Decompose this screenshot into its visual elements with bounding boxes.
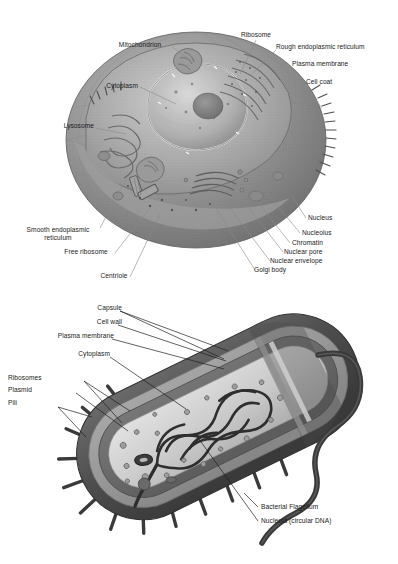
label-cell-wall: Cell wall (56, 318, 122, 326)
label-smooth-endoplasmic-reticulum: Smooth endoplasmic reticulum (12, 226, 104, 242)
label-capsule: Capsule (60, 304, 122, 312)
label-plasma-membrane-bact: Plasma membrane (20, 332, 114, 340)
label-rough-endoplasmic-reticulum: Rough endoplasmic reticulum (276, 43, 398, 51)
label-ribosomes: Ribosomes (8, 374, 72, 382)
label-nucleolus: Nucleolus (302, 229, 360, 237)
label-nuclear-pore: Nuclear pore (284, 248, 354, 256)
label-mitochondrion: Mitochondrion (104, 41, 176, 49)
label-nucleoid: Nucleoid (circular DNA) (261, 517, 393, 525)
label-chromatin: Chromatin (292, 239, 350, 247)
label-golgi-body: Golgi body (254, 266, 316, 274)
label-plasmid: Plasmid (8, 386, 62, 394)
label-cell-coat: Cell coat (306, 78, 368, 86)
label-lysosome: Lysosome (38, 122, 94, 130)
page: Mitochondrion Ribosome Rough endoplasmic… (0, 0, 398, 564)
label-pili: Pili (8, 399, 42, 407)
label-free-ribosome: Free ribosome (52, 248, 120, 256)
label-cytoplasm: Cytoplasm (72, 82, 138, 90)
label-nuclear-envelope: Nuclear envelope (270, 257, 356, 265)
label-ribosome: Ribosome (228, 31, 284, 39)
label-centriole: Centriole (90, 272, 138, 280)
label-bacterial-flagellum: Bacterial Flagellum (261, 503, 377, 511)
label-nucleus: Nucleus (308, 214, 366, 222)
bacterial-cell-figure: Capsule Cell wall Plasma membrane Cytopl… (0, 285, 398, 564)
label-plasma-membrane: Plasma membrane (292, 60, 390, 68)
animal-cell-figure: Mitochondrion Ribosome Rough endoplasmic… (0, 0, 398, 290)
label-cytoplasm-bact: Cytoplasm (34, 350, 110, 358)
